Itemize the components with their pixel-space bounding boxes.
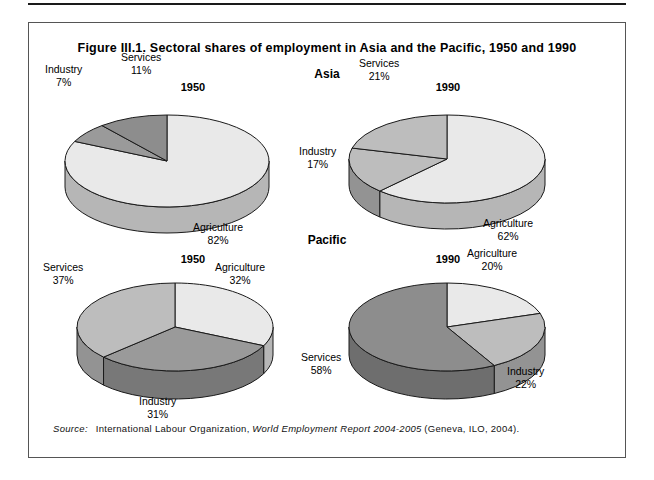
source-label: Source: — [53, 423, 88, 434]
slice-label-industry-asia-1950: Industry 7% — [45, 63, 82, 89]
pie-svg-asia-1990 — [307, 99, 597, 249]
pie-body-asia-1990 — [349, 115, 545, 229]
pie-svg-pacific-1950 — [47, 271, 337, 421]
pie-body-pacific-1950 — [77, 283, 273, 399]
pie-svg-pacific-1990 — [307, 271, 597, 421]
slice-label-services-asia-1990: Services 21% — [359, 57, 399, 83]
region-heading-asia: Asia — [29, 67, 625, 81]
slice-label-agriculture-asia-1950: Agriculture 82% — [193, 221, 243, 247]
pie-chart-pacific-1950: Services 37% Agriculture 32% Industry 31… — [47, 271, 337, 421]
top-horizontal-rule — [28, 3, 626, 5]
slice-label-industry-pacific-1950: Industry 31% — [139, 395, 176, 421]
source-text-after: (Geneva, ILO, 2004). — [424, 423, 519, 434]
pie-body-asia-1950 — [65, 115, 269, 233]
year-label-asia-1990: 1990 — [408, 81, 488, 93]
slice-label-agriculture-pacific-1990: Agriculture 20% — [467, 247, 517, 273]
slice-label-industry-pacific-1990: Industry 22% — [507, 365, 544, 391]
figure-box: Figure III.1. Sectoral shares of employm… — [28, 22, 626, 458]
slice-label-agriculture-asia-1990: Agriculture 62% — [483, 217, 533, 243]
source-note: Source: International Labour Organizatio… — [53, 423, 520, 434]
figure-title: Figure III.1. Sectoral shares of employm… — [29, 41, 625, 55]
pie-svg-asia-1950 — [47, 99, 337, 249]
slice-label-agriculture-pacific-1950: Agriculture 32% — [215, 261, 265, 287]
pie-chart-asia-1990: Services 21% Industry 17% Agriculture 62… — [307, 99, 597, 249]
year-label-asia-1950: 1950 — [153, 81, 233, 93]
source-publication-title: World Employment Report 2004-2005 — [252, 423, 421, 434]
slice-label-services-pacific-1950: Services 37% — [43, 261, 83, 287]
slice-label-industry-asia-1990: Industry 17% — [299, 145, 336, 171]
pie-chart-pacific-1990: Agriculture 20% Industry 22% Services 58… — [307, 271, 597, 421]
slice-label-services-pacific-1990: Services 58% — [301, 351, 341, 377]
slice-label-services-asia-1950: Services 11% — [121, 51, 161, 77]
pie-chart-asia-1950: Industry 7% Services 11% Agriculture 82% — [47, 99, 337, 249]
source-text-before: International Labour Organization, — [96, 423, 250, 434]
